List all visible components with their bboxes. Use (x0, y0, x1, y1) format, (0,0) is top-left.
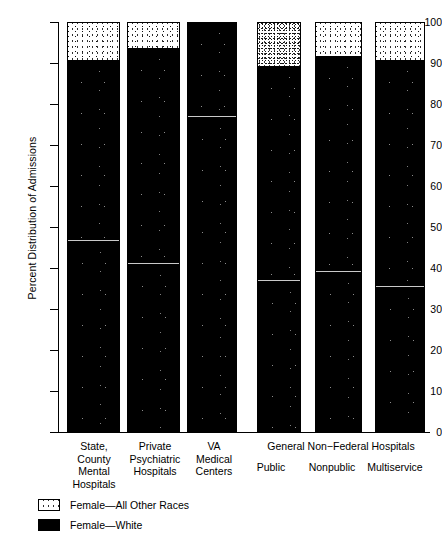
x-axis-line (58, 432, 430, 433)
bar-state-county-mental[interactable] (67, 22, 120, 432)
bar-inner-texture (188, 117, 236, 431)
legend-swatch-stipple-icon (38, 499, 60, 511)
x-label-line: Hospitals (52, 478, 136, 491)
bar-inner-box (67, 240, 120, 432)
bar-inner-texture (258, 281, 300, 431)
bar-inner-box (257, 280, 301, 432)
bar-inner-box (127, 263, 180, 432)
y-axis-title: Percent Distribution of Admissions (26, 68, 38, 368)
bar-inner-texture (68, 241, 119, 431)
bar-private-psychiatric[interactable] (127, 22, 180, 432)
bar-general-public[interactable] (257, 22, 301, 432)
y-tick-70 (50, 145, 58, 146)
chart-container: 100 90 80 70 60 50 40 30 20 10 0 Percent… (0, 0, 442, 534)
y-tick-90 (50, 63, 58, 64)
y-tick-40 (50, 268, 58, 269)
y-tick-30 (50, 309, 58, 310)
y-tick-20 (50, 350, 58, 351)
bar-inner-texture (128, 264, 179, 431)
bar-inner-box (375, 286, 425, 432)
y-tick-100 (50, 22, 58, 23)
bar-general-nonpublic[interactable] (315, 22, 362, 432)
bar-inner-box (315, 271, 362, 432)
bar-inner-texture (316, 272, 361, 431)
legend-swatch-black-icon (38, 519, 60, 531)
bar-segment-all-other-races (127, 22, 180, 49)
bar-general-multiservice[interactable] (375, 22, 425, 432)
bar-va-medical-centers[interactable] (187, 22, 237, 432)
plot-area (58, 22, 430, 432)
legend-label: Female—White (70, 518, 142, 532)
y-tick-60 (50, 186, 58, 187)
bar-segment-all-other-races (257, 22, 301, 67)
y-tick-80 (50, 104, 58, 105)
y-tick-10 (50, 391, 58, 392)
bar-segment-all-other-races (67, 22, 120, 61)
x-label-multiservice: Multiservice (353, 461, 437, 474)
bar-segment-all-other-races (375, 22, 425, 61)
bar-inner-texture (376, 287, 424, 431)
x-group-label-general-non-federal: General Non−Federal Hospitals (241, 440, 441, 453)
bar-segment-all-other-races (315, 22, 362, 57)
legend-label: Female—All Other Races (70, 498, 189, 512)
bar-inner-box (187, 116, 237, 432)
y-tick-0 (50, 432, 58, 433)
y-tick-50 (50, 227, 58, 228)
